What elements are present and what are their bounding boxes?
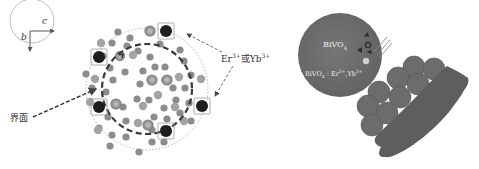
dopant-ion xyxy=(194,98,210,114)
c-axis-label: c xyxy=(42,16,47,26)
dopant-label-yb: 或Yb xyxy=(241,54,262,64)
bivo4-sphere xyxy=(298,13,382,97)
large-host-ions xyxy=(110,25,172,130)
interface-label: 界面 xyxy=(10,111,28,124)
dopant-ion xyxy=(158,23,174,39)
dopant-label-er: Er xyxy=(221,54,232,64)
shell-yb-text: ,Yb xyxy=(345,70,356,78)
shell-er-text: : Er xyxy=(325,70,339,78)
bivo4-core-label: BiVO4 xyxy=(323,40,347,51)
axis-circle xyxy=(10,0,54,43)
dopant-pointer-arrow-icon xyxy=(215,66,233,96)
dopant-label: Er3+或Yb3+ xyxy=(221,52,270,65)
crystal-axis-indicator xyxy=(10,0,54,51)
shell-bivo-text: BiVO xyxy=(305,70,322,78)
dopant-label-er-charge: 3+ xyxy=(232,52,241,59)
shell-yb-charge: 3+ xyxy=(356,69,363,74)
bivo4-shell-label: BiVO4 : Er3+,Yb3+ xyxy=(305,69,363,79)
bivo4-text: BiVO xyxy=(323,40,344,49)
host-ions xyxy=(82,28,194,155)
dopant-pointer-arrow-icon xyxy=(187,34,222,52)
b-axis-label: b xyxy=(21,32,27,42)
bivo4-subscript: 4 xyxy=(344,45,347,51)
dopant-label-yb-charge: 3+ xyxy=(261,52,270,59)
lattice-cross-section xyxy=(33,23,233,156)
dopant-ion xyxy=(91,49,107,65)
diagram-canvas xyxy=(0,0,479,169)
emission-dot xyxy=(363,58,369,64)
